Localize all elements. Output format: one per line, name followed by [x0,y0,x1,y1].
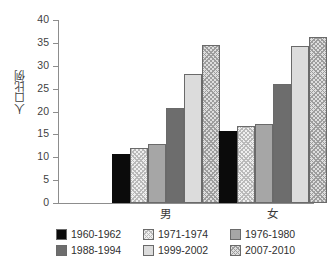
category-label: 女 [252,207,292,221]
y-tick: 15 [53,134,58,135]
bar [255,124,273,203]
bar-chart-figure: 人口比例 0510152025303540 男女 1960-19621971-1… [0,0,332,265]
bar [148,144,166,203]
bar [237,126,255,203]
legend-item[interactable]: 1999-2002 [143,244,230,256]
legend-label: 1999-2002 [158,244,208,256]
bar [130,148,148,203]
legend-swatch-icon [230,229,241,240]
y-tick: 30 [53,66,58,67]
y-tick-label: 25 [37,82,49,95]
y-tick-label: 40 [37,13,49,26]
y-tick: 25 [53,89,58,90]
y-tick: 20 [53,112,58,113]
y-tick-label: 15 [37,127,49,140]
bar [291,46,309,203]
y-tick: 10 [53,157,58,158]
bar [166,108,184,203]
bar [309,37,327,203]
y-tick-label: 10 [37,150,49,163]
legend-item[interactable]: 1971-1974 [143,228,230,240]
legend-swatch-icon [143,245,154,256]
legend-swatch-icon [143,229,154,240]
legend-swatch-icon [56,229,67,240]
y-tick-label: 35 [37,36,49,49]
plot-area: 0510152025303540 [58,20,314,204]
legend-label: 1960-1962 [71,228,121,240]
x-axis-line [58,203,314,204]
y-tick: 40 [53,20,58,21]
y-tick-label: 30 [37,59,49,72]
legend-label: 1971-1974 [158,228,208,240]
bar [273,84,291,203]
y-tick: 0 [53,203,58,204]
bar-group [112,20,220,203]
bar [112,154,130,203]
y-tick: 35 [53,43,58,44]
category-label: 男 [145,207,185,221]
legend-swatch-icon [56,245,67,256]
bar [219,131,237,203]
bar-group [219,20,327,203]
y-tick-label: 0 [43,196,49,209]
legend-item[interactable]: 1960-1962 [56,228,143,240]
bar [184,74,202,203]
legend-swatch-icon [230,245,241,256]
legend-label: 1988-1994 [71,244,121,256]
y-axis-label: 人口比例 [14,70,32,114]
legend-item[interactable]: 2007-2010 [230,244,317,256]
legend-label: 1976-1980 [245,228,295,240]
bar [202,45,220,203]
legend-row: 1960-19621971-19741976-1980 [56,226,318,242]
y-tick-label: 5 [43,173,49,186]
bar-series-container [59,20,314,203]
legend-row: 1988-19941999-20022007-2010 [56,242,318,258]
legend-item[interactable]: 1976-1980 [230,228,317,240]
legend-label: 2007-2010 [245,244,295,256]
y-tick: 5 [53,180,58,181]
chart-legend: 1960-19621971-19741976-19801988-19941999… [56,226,318,258]
y-tick-label: 20 [37,105,49,118]
legend-item[interactable]: 1988-1994 [56,244,143,256]
